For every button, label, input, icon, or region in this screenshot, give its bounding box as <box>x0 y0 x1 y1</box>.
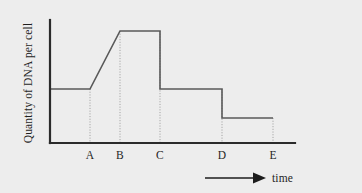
dna-quantity-curve <box>50 31 273 118</box>
x-tick-label-b: B <box>116 149 124 161</box>
x-tick-labels: A B C D E <box>86 149 277 161</box>
dna-quantity-figure: A B C D E Quantity of DNA per cell time <box>0 0 362 193</box>
x-tick-label-c: C <box>156 149 164 161</box>
x-tick-label-e: E <box>269 149 276 161</box>
dna-quantity-chart: A B C D E Quantity of DNA per cell time <box>0 0 362 193</box>
y-axis-title: Quantity of DNA per cell <box>22 23 35 144</box>
axes-group <box>50 20 295 143</box>
x-tick-label-a: A <box>86 149 95 161</box>
x-tick-label-d: D <box>218 149 227 161</box>
x-axis-title: time <box>272 172 293 184</box>
gridlines-group <box>90 31 273 143</box>
time-arrow-group: time <box>205 172 293 184</box>
time-arrow-head-icon <box>253 173 266 184</box>
